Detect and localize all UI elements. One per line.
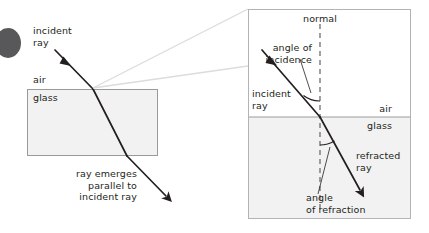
refracted-ray-label: refracted ray xyxy=(356,150,400,173)
normal-label: normal xyxy=(290,13,350,25)
angle-of-refraction-label: angle of refraction xyxy=(306,192,366,215)
glass-label-left: glass xyxy=(33,92,58,104)
incident-ray-label-right: incident ray xyxy=(252,88,291,111)
magnifier-connector-bottom xyxy=(93,66,248,88)
air-label-right: air xyxy=(330,103,392,115)
angle-of-incidence-label: angle of incidence xyxy=(246,42,312,65)
glass-label-right: glass xyxy=(330,120,392,132)
magnifier-connector-top xyxy=(93,9,248,88)
incident-ray-left xyxy=(55,50,93,89)
incident-ray-label-left: incident ray xyxy=(33,25,72,48)
incident-ray-arrowhead-left xyxy=(60,57,72,67)
bullet-circle-icon xyxy=(0,28,21,58)
air-label-left: air xyxy=(33,74,46,86)
emergent-ray-caption: ray emerges parallel to incident ray xyxy=(19,168,137,203)
refraction-diagram: incident ray air glass ray emerges paral… xyxy=(0,0,429,233)
